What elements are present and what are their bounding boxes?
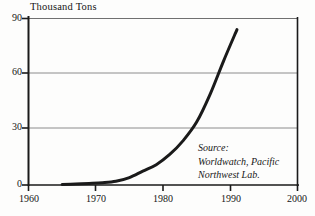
y-axis-label-90: 90 (0, 12, 22, 23)
source-line-2: Worldwatch, Pacific (198, 155, 279, 169)
y-axis-label-30: 30 (0, 121, 22, 132)
plot-area (0, 0, 315, 216)
x-axis-label-1990: 1990 (211, 193, 251, 204)
x-axis-label-1960: 1960 (9, 193, 49, 204)
source-line-3: Northwest Lab. (198, 168, 279, 182)
x-axis-label-1980: 1980 (143, 193, 183, 204)
source-line-1: Source: (198, 141, 279, 155)
chart-figure: Thousand Tons 90 60 30 0 1960 1970 1980 … (0, 0, 315, 216)
x-axis-label-2000: 2000 (277, 193, 315, 204)
x-axis-label-1970: 1970 (76, 193, 116, 204)
source-note: Source: Worldwatch, Pacific Northwest La… (198, 141, 279, 182)
y-axis-label-0: 0 (0, 178, 22, 189)
y-axis-label-60: 60 (0, 66, 22, 77)
